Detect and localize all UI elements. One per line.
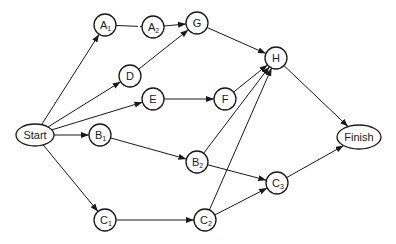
node-h-label: H [272,52,280,64]
edge-a2-to-g [164,24,186,26]
node-e: E [142,88,164,110]
node-c2: C2 [194,209,216,231]
edges-layer [42,24,348,220]
edge-b2-to-h [204,67,270,153]
node-b1: B1 [89,124,111,146]
edge-b2-to-c3 [208,165,267,180]
nodes-layer: StartA1A2GDEFHB1B2C3C1C2Finish [16,12,381,231]
node-c1: C1 [94,209,116,231]
diagram-svg: StartA1A2GDEFHB1B2C3C1C2Finish [0,0,396,244]
node-finish: Finish [337,125,381,149]
node-d: D [119,65,141,87]
edge-a1-to-a2 [116,25,142,26]
edge-h-to-finish [284,66,348,127]
node-d-label: D [126,70,134,82]
node-f-label: F [222,93,229,105]
node-b2: B2 [186,151,208,173]
edge-start-to-a1 [42,34,100,124]
node-e-label: E [149,93,156,105]
node-c3: C3 [266,172,288,194]
edge-c3-to-finish [287,146,344,178]
network-diagram: StartA1A2GDEFHB1B2C3C1C2Finish [0,0,396,244]
edge-c2-to-c3 [215,188,267,215]
node-finish-label: Finish [344,131,373,143]
node-h: H [265,47,287,69]
node-g: G [186,12,208,34]
edge-g-to-h [207,27,266,53]
node-start-label: Start [23,129,46,141]
node-g-label: G [193,17,202,29]
node-f: F [214,88,236,110]
edge-b1-to-b2 [111,138,187,159]
node-a2: A2 [142,16,164,38]
node-start: Start [16,124,54,146]
edge-start-to-c1 [43,145,98,212]
node-a1: A1 [94,14,116,36]
